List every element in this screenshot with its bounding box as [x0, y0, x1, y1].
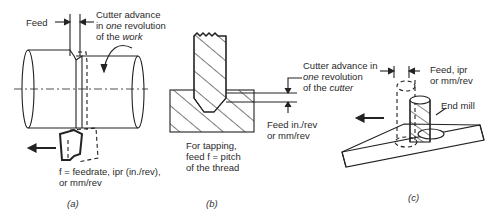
- panel-b-tapping: [170, 33, 302, 132]
- panel-a-advance-label: Cutter advance in one revolution of the …: [96, 9, 166, 42]
- panel-a-feed-label: Feed: [26, 17, 48, 28]
- panel-c-feed-label: Feed, ipr or mm/rev: [430, 64, 473, 86]
- panel-c-advance-label: Cutter advance in one revolution of the …: [303, 60, 377, 93]
- panel-a-caption: (a): [67, 198, 79, 209]
- panel-b-tapping-label: For tapping, feed f = pitch of the threa…: [186, 140, 241, 173]
- panel-a-feedrate-label: f = feedrate, ipr (in./rev), or mm/rev: [59, 166, 161, 188]
- panel-c-end-mill-label: End mill: [441, 100, 475, 111]
- panel-b-caption: (b): [206, 198, 218, 209]
- panel-c-caption: (c): [408, 192, 419, 203]
- panel-b-feed-label: Feed in./rev or mm/rev: [267, 119, 317, 141]
